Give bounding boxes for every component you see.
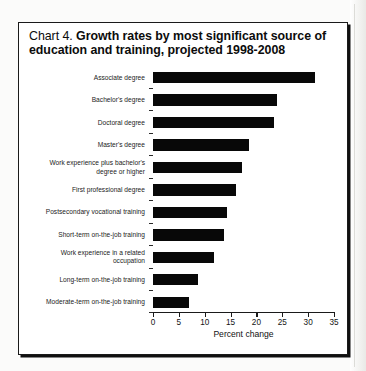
category-label: Associate degree bbox=[19, 67, 149, 89]
category-label: Long-term on-the-job training bbox=[19, 269, 149, 291]
x-axis-tick bbox=[179, 312, 180, 317]
category-label: Moderate-term on-the-job training bbox=[19, 291, 149, 313]
bar bbox=[153, 162, 242, 173]
scanned-page: Chart 4. Growth rates by most significan… bbox=[0, 0, 366, 371]
bar-row: Master's degree bbox=[19, 134, 349, 156]
x-axis-tick-label: 10 bbox=[192, 318, 218, 327]
bar bbox=[153, 274, 198, 285]
bar-row: Associate degree bbox=[19, 67, 349, 89]
bar-series: Associate degreeBachelor's degreeDoctora… bbox=[19, 65, 349, 312]
bar-row: Moderate-term on-the-job training bbox=[19, 291, 349, 313]
category-label-line: Long-term on-the-job training bbox=[59, 276, 145, 284]
chart-title: Chart 4. Growth rates by most significan… bbox=[29, 29, 335, 57]
bar-row: Doctoral degree bbox=[19, 111, 349, 133]
x-axis-title: Percent change bbox=[153, 329, 334, 339]
category-label-line: Master's degree bbox=[98, 141, 145, 149]
x-axis-tick bbox=[308, 312, 309, 317]
bar bbox=[153, 297, 189, 308]
bar-row: Long-term on-the-job training bbox=[19, 269, 349, 291]
category-label-line: Short-term on-the-job training bbox=[58, 231, 145, 239]
x-axis-tick-label: 15 bbox=[218, 318, 244, 327]
category-label-line: occupation bbox=[113, 257, 145, 265]
chart-title-main: Growth rates by most significant source … bbox=[29, 29, 326, 57]
x-axis-tick bbox=[231, 312, 232, 317]
bar-row: Postsecondary vocational training bbox=[19, 201, 349, 223]
category-label: Postsecondary vocational training bbox=[19, 201, 149, 223]
chart-frame: Chart 4. Growth rates by most significan… bbox=[18, 22, 348, 355]
category-label: First professional degree bbox=[19, 179, 149, 201]
plot-area: Associate degreeBachelor's degreeDoctora… bbox=[19, 65, 349, 354]
bar bbox=[153, 229, 224, 240]
x-axis-tick bbox=[256, 312, 257, 317]
category-label: Bachelor's degree bbox=[19, 89, 149, 111]
bar bbox=[153, 72, 315, 83]
x-axis-tick bbox=[282, 312, 283, 317]
x-axis-tick bbox=[334, 312, 335, 317]
category-label: Work experience plus bachelor'sdegree or… bbox=[19, 156, 149, 178]
category-label-line: Doctoral degree bbox=[98, 119, 145, 127]
bar-row: Work experience plus bachelor'sdegree or… bbox=[19, 156, 349, 178]
category-label-line: Moderate-term on-the-job training bbox=[46, 298, 145, 306]
bar bbox=[153, 94, 277, 105]
x-axis-tick-label: 30 bbox=[295, 318, 321, 327]
category-label: Master's degree bbox=[19, 134, 149, 156]
bar bbox=[153, 117, 274, 128]
page-edge-shading bbox=[350, 0, 366, 371]
x-axis-tick-label: 20 bbox=[243, 318, 269, 327]
page-margin-rule bbox=[354, 4, 355, 367]
category-label-line: First professional degree bbox=[72, 186, 145, 194]
bar-row: Bachelor's degree bbox=[19, 89, 349, 111]
category-label-line: Postsecondary vocational training bbox=[46, 208, 145, 216]
category-label-line: degree or higher bbox=[96, 168, 145, 176]
bar bbox=[153, 252, 214, 263]
x-axis-tick bbox=[205, 312, 206, 317]
category-label: Doctoral degree bbox=[19, 111, 149, 133]
x-axis-tick-label: 35 bbox=[321, 318, 347, 327]
category-label-line: Associate degree bbox=[94, 74, 145, 82]
bar-row: Work experience in a relatedoccupation bbox=[19, 246, 349, 268]
chart-title-prefix: Chart 4. bbox=[29, 29, 73, 43]
bar bbox=[153, 139, 249, 150]
category-label-line: Bachelor's degree bbox=[92, 96, 145, 104]
category-label-line: Work experience plus bachelor's bbox=[49, 159, 145, 167]
category-label: Work experience in a relatedoccupation bbox=[19, 246, 149, 268]
x-axis-tick-label: 25 bbox=[269, 318, 295, 327]
bar bbox=[153, 184, 236, 195]
category-label: Short-term on-the-job training bbox=[19, 224, 149, 246]
x-axis-tick-label: 0 bbox=[140, 318, 166, 327]
bar-row: First professional degree bbox=[19, 179, 349, 201]
category-label-line: Work experience in a related bbox=[61, 249, 145, 257]
bar-row: Short-term on-the-job training bbox=[19, 224, 349, 246]
bar bbox=[153, 207, 227, 218]
x-axis-line bbox=[153, 312, 334, 313]
x-axis-tick-label: 5 bbox=[166, 318, 192, 327]
x-axis-tick bbox=[153, 312, 154, 317]
